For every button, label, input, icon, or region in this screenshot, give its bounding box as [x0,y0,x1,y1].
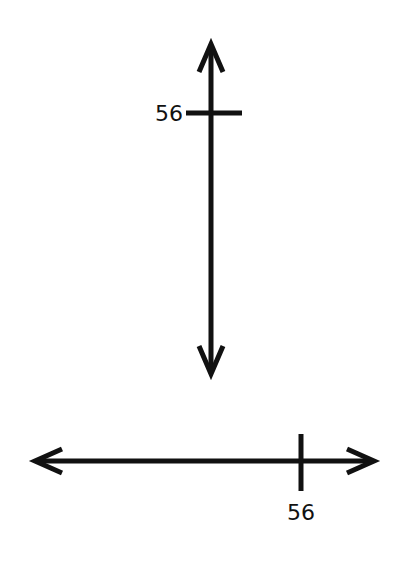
horizontal-number-line: 56 [35,434,374,525]
number-lines-diagram: 56 56 [0,0,419,561]
horizontal-tick-label: 56 [287,500,315,525]
vertical-tick-label: 56 [155,101,183,126]
vertical-number-line: 56 [155,44,242,374]
